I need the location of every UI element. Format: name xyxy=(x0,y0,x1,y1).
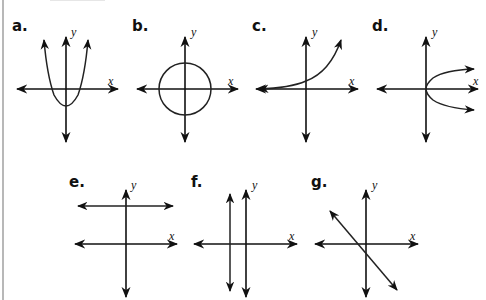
graphs-figure: a. y x b. y x c. y x d. y x e. y x xyxy=(0,0,486,300)
y-axis-label: y xyxy=(371,178,378,192)
y-axis-label: y xyxy=(311,25,318,39)
decreasing-line xyxy=(330,211,397,290)
graph-c: c. y x xyxy=(252,17,358,142)
graph-label-g: g. xyxy=(311,173,327,191)
x-axis-label: x xyxy=(472,74,479,88)
graph-e: e. y x xyxy=(69,173,177,297)
x-axis-label: x xyxy=(288,229,295,243)
graph-label-c: c. xyxy=(252,17,267,35)
graph-label-d: d. xyxy=(372,17,388,35)
x-axis-label: x xyxy=(409,229,416,243)
x-axis-label: x xyxy=(348,74,355,88)
graph-label-b: b. xyxy=(132,17,148,35)
graph-d: d. y x xyxy=(372,17,479,142)
x-axis-label: x xyxy=(168,229,175,243)
exponential-curve xyxy=(259,40,341,89)
graph-f: f. y x xyxy=(191,173,297,297)
graph-a: a. y x xyxy=(12,17,118,142)
y-axis-label: y xyxy=(431,25,438,39)
y-axis-label: y xyxy=(70,25,77,39)
graph-b: b. y x xyxy=(132,17,238,142)
x-axis-label: x xyxy=(107,74,114,88)
graph-g: g. y x xyxy=(311,173,418,297)
y-axis-label: y xyxy=(130,178,137,192)
graph-label-f: f. xyxy=(191,173,202,191)
graph-label-a: a. xyxy=(12,17,28,35)
y-axis-label: y xyxy=(190,25,197,39)
x-axis-label: x xyxy=(227,74,234,88)
y-axis-label: y xyxy=(251,178,258,192)
graph-label-e: e. xyxy=(69,173,85,191)
